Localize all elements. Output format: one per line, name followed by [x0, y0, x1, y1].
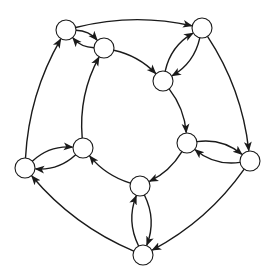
node-outer-O5	[15, 158, 35, 178]
directed-graph-diagram	[0, 0, 274, 276]
edge-I3-to-O3	[197, 141, 242, 154]
edge-O5-to-O1	[26, 39, 61, 158]
edge-O1-to-O2	[76, 20, 192, 28]
edge-I4-to-O4	[144, 195, 151, 245]
edge-I1-to-O1	[73, 38, 94, 48]
node-inner-I5	[73, 138, 93, 158]
edge-O4-to-I4	[132, 196, 139, 246]
edge-I5-to-I1	[82, 57, 99, 138]
node-inner-I4	[130, 176, 150, 196]
edge-O2-to-I2	[172, 38, 200, 76]
node-outer-O1	[56, 20, 76, 40]
edge-O3-to-O4	[152, 169, 244, 250]
edge-layer	[26, 20, 249, 251]
edge-O4-to-O5	[32, 176, 134, 251]
edge-O3-to-I3	[195, 150, 240, 163]
edge-I4-to-I5	[90, 156, 131, 183]
node-outer-O2	[192, 18, 212, 38]
node-inner-I1	[94, 38, 114, 58]
edge-I5-to-O5	[36, 155, 76, 169]
edge-O2-to-O3	[208, 36, 249, 150]
node-inner-I3	[177, 133, 197, 153]
edge-I3-to-I4	[150, 152, 182, 182]
edge-O1-to-I1	[76, 30, 97, 40]
edge-I1-to-I2	[114, 50, 156, 73]
node-inner-I2	[153, 71, 173, 91]
edge-O5-to-I5	[32, 147, 72, 161]
edge-I2-to-O2	[165, 33, 193, 71]
node-outer-O3	[240, 151, 260, 171]
node-outer-O4	[133, 245, 153, 265]
edge-I2-to-I3	[169, 89, 186, 133]
